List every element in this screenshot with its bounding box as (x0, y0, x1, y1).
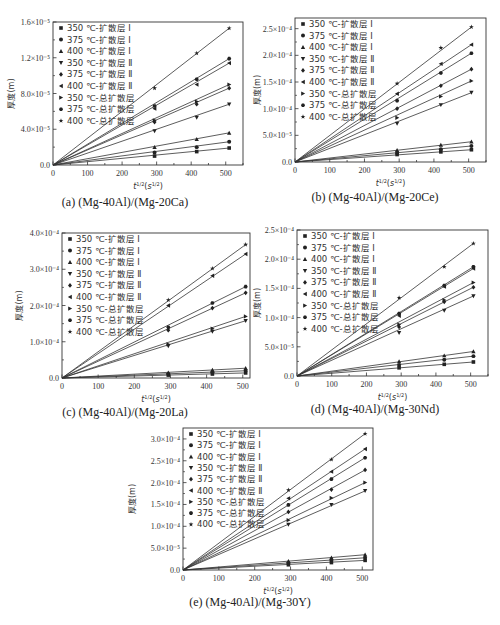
square-marker-icon (189, 432, 193, 436)
triangle-down-marker-icon (395, 122, 399, 126)
legend-item-label: 400 ℃-扩散层 Ⅰ (309, 42, 373, 52)
legend-item-label: 375 ℃-总扩散层 (76, 315, 144, 325)
y-axis-label: 厚度(m) (127, 484, 137, 514)
diamond-marker-icon (471, 285, 475, 290)
line-chart: 0100200300400500t1/2(s1/2)0.05.0×10⁻⁵1.0… (250, 215, 500, 415)
triangle-right-marker-icon (59, 95, 63, 99)
legend: 350 ℃-扩散层 Ⅰ375 ℃-扩散层 Ⅰ400 ℃-扩散层 Ⅰ350 ℃-扩… (301, 19, 377, 122)
x-tick-label: 100 (324, 166, 336, 175)
square-marker-icon (472, 360, 476, 364)
legend-item-label: 400 ℃-扩散层 Ⅱ (76, 292, 141, 302)
legend-item-label: 375 ℃-总扩散层 (311, 312, 379, 322)
diamond-marker-icon (210, 306, 214, 311)
y-tick-label: 1.5×10⁻⁴ (151, 500, 181, 509)
triangle-up-marker-icon (303, 257, 307, 261)
triangle-left-marker-icon (329, 470, 333, 474)
y-axis: 0.01.0×10⁻⁴2.0×10⁻⁴3.0×10⁻⁴4.0×10⁻⁴厚度(m) (14, 229, 66, 383)
legend-item-label: 400 ℃-扩散层 Ⅱ (197, 486, 262, 496)
chart-panel-a: 0100200300400500t1/2(s1/2)0.04.0×10⁻⁵8.0… (0, 0, 250, 215)
legend-item-label: 400 ℃-总扩散层 (311, 324, 379, 334)
legend: 350 ℃-扩散层 Ⅰ375 ℃-扩散层 Ⅰ400 ℃-扩散层 Ⅰ350 ℃-扩… (59, 23, 135, 126)
legend-item-label: 375 ℃-扩散层 Ⅱ (76, 280, 141, 290)
y-tick-label: 0.0 (282, 158, 292, 167)
legend-item-label: 400 ℃-扩散层 Ⅱ (309, 77, 374, 87)
triangle-down-marker-icon (363, 489, 367, 493)
legend-item-label: 350 ℃-总扩散层 (309, 89, 377, 99)
x-tick-label: 300 (151, 169, 163, 178)
chart-caption: (b) (Mg-40Al)/(Mg-20Ce) (250, 190, 500, 205)
y-axis-label: 厚度(m) (252, 75, 262, 105)
y-tick-label: 1.5×10⁻⁴ (265, 284, 295, 293)
x-tick-label: 400 (185, 169, 197, 178)
chart-panel-b: 0100200300400500t1/2(s1/2)0.05.0×10⁻⁵1.0… (250, 0, 500, 215)
y-axis: 0.05.0×10⁻⁵1.0×10⁻⁴1.5×10⁻⁴2.0×10⁻⁴2.5×1… (127, 435, 187, 575)
x-axis: 0100200300400500t1/2(s1/2) (60, 375, 249, 405)
square-marker-icon (442, 363, 446, 367)
legend-item-label: 375 ℃-扩散层 Ⅰ (67, 35, 131, 45)
legend-item-label: 350 ℃-总扩散层 (76, 304, 144, 314)
diamond-marker-icon (227, 86, 231, 91)
square-marker-icon (303, 234, 307, 238)
legend-item-label: 375 ℃-扩散层 Ⅰ (76, 246, 140, 256)
x-tick-label: 500 (463, 166, 475, 175)
square-marker-icon (227, 146, 231, 150)
diamond-marker-icon (303, 280, 307, 285)
legend-item-label: 350 ℃-扩散层 Ⅰ (197, 429, 261, 439)
triangle-right-marker-icon (189, 500, 193, 504)
circle-marker-icon (303, 246, 307, 250)
x-tick-label: 300 (164, 382, 176, 391)
hexagon-marker-icon (303, 315, 307, 319)
triangle-left-marker-icon (189, 488, 193, 492)
diamond-marker-icon (301, 68, 305, 73)
diamond-marker-icon (395, 106, 399, 111)
triangle-up-marker-icon (59, 49, 63, 53)
y-tick-label: 5.0×10⁻⁵ (263, 131, 293, 140)
chart-caption: (a) (Mg-40Al)/(Mg-20Ca) (0, 195, 250, 210)
x-tick-label: 200 (360, 380, 372, 389)
legend-item-label: 400 ℃-总扩散层 (67, 116, 135, 126)
triangle-left-marker-icon (301, 80, 305, 84)
y-tick-label: 5.0×10⁻⁵ (151, 544, 181, 553)
x-axis-label: t1/2(s1/2) (141, 394, 171, 404)
legend-item-label: 350 ℃-扩散层 Ⅰ (309, 19, 373, 29)
y-tick-label: 2.0×10⁻⁴ (30, 302, 60, 311)
legend: 350 ℃-扩散层 Ⅰ375 ℃-扩散层 Ⅰ400 ℃-扩散层 Ⅰ350 ℃-扩… (68, 234, 144, 337)
legend-item-label: 375 ℃-总扩散层 (67, 104, 135, 114)
x-tick-label: 300 (395, 380, 407, 389)
diamond-marker-icon (469, 67, 473, 72)
y-tick-label: 2.0×10⁻⁴ (265, 255, 295, 264)
x-tick-label: 100 (82, 169, 94, 178)
x-tick-label: 0 (60, 382, 64, 391)
legend-item-label: 400 ℃-总扩散层 (197, 519, 265, 529)
y-axis-label: 厚度(m) (252, 288, 262, 318)
x-axis: 0100200300400500t1/2(s1/2) (51, 162, 243, 192)
x-tick-label: 400 (320, 574, 332, 583)
y-tick-label: 2.0×10⁻⁴ (151, 479, 181, 488)
y-tick-label: 5.0×10⁻⁵ (265, 343, 295, 352)
legend-item-label: 400 ℃-总扩散层 (309, 112, 377, 122)
legend: 350 ℃-扩散层 Ⅰ375 ℃-扩散层 Ⅰ400 ℃-扩散层 Ⅰ350 ℃-扩… (303, 231, 379, 334)
square-marker-icon (301, 22, 305, 26)
x-tick-label: 400 (428, 166, 440, 175)
x-tick-label: 200 (358, 166, 370, 175)
legend-item-label: 350 ℃-扩散层 Ⅰ (67, 23, 131, 33)
circle-marker-icon (442, 358, 446, 362)
diamond-marker-icon (363, 468, 367, 473)
y-axis: 0.05.0×10⁻⁵1.0×10⁻⁴1.5×10⁻⁴2.0×10⁻⁴2.5×1… (252, 25, 299, 167)
triangle-down-marker-icon (303, 269, 307, 273)
legend-item-label: 350 ℃-扩散层 Ⅱ (309, 54, 374, 64)
line-chart: 0100200300400500t1/2(s1/2)0.01.0×10⁻⁴2.0… (0, 215, 250, 415)
triangle-left-marker-icon (59, 84, 63, 88)
legend-item-label: 350 ℃-总扩散层 (67, 93, 135, 103)
square-marker-icon (153, 154, 157, 158)
diamond-marker-icon (286, 510, 290, 515)
circle-marker-icon (68, 249, 72, 253)
y-tick-label: 0.0 (49, 374, 59, 383)
x-tick-label: 500 (356, 574, 368, 583)
square-marker-icon (68, 237, 72, 241)
x-tick-label: 100 (326, 380, 338, 389)
legend-item-label: 375 ℃-扩散层 Ⅰ (311, 243, 375, 253)
data-series (295, 140, 474, 162)
x-tick-label: 300 (285, 574, 297, 583)
triangle-right-marker-icon (363, 480, 367, 484)
